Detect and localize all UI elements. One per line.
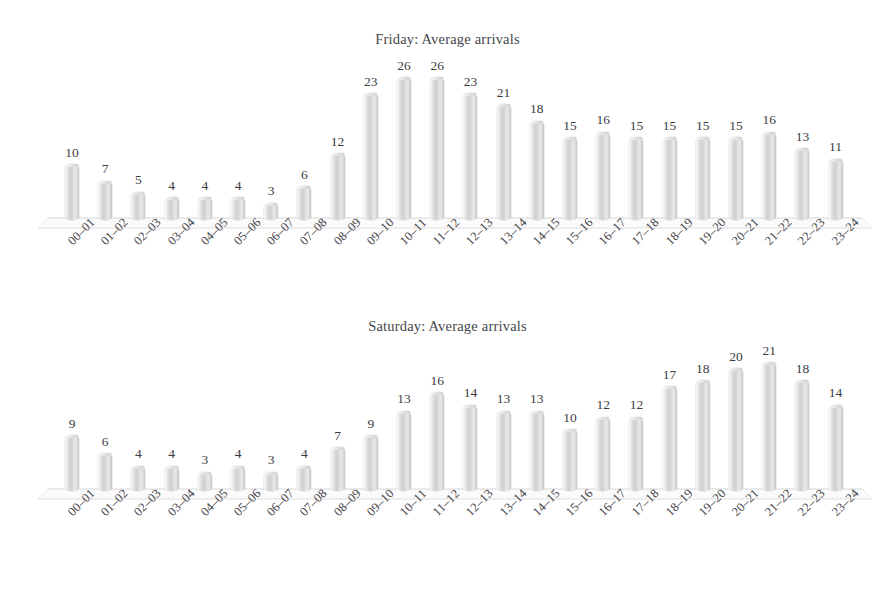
- bar-cylinder: [165, 198, 179, 220]
- chart-saturday-x-axis-labels: 00–0101–0202–0303–0404–0505–0606–0707–08…: [0, 297, 895, 367]
- chart-friday: Friday: Average arrivals 107544436122326…: [0, 0, 895, 300]
- bar-top-cap: [829, 158, 843, 162]
- bar-top-cap: [131, 191, 145, 195]
- bar-cylinder: [264, 204, 278, 220]
- bar-cylinder: [297, 187, 311, 220]
- bar-cylinder: [397, 412, 411, 491]
- bar-value-label: 21: [489, 86, 519, 100]
- bar-cylinder: [165, 467, 179, 491]
- bar-cylinder: [762, 363, 776, 491]
- bar-top-cap: [596, 131, 610, 135]
- bar-value-label: 17: [655, 368, 685, 382]
- bar-top-cap: [629, 416, 643, 420]
- bar-value-label: 16: [422, 374, 452, 388]
- bar-top-cap: [463, 404, 477, 408]
- bar-value-label: 15: [721, 119, 751, 133]
- bar-top-cap: [663, 136, 677, 140]
- bar-top-cap: [198, 471, 212, 475]
- bar-cylinder: [98, 454, 112, 491]
- bar-top-cap: [131, 465, 145, 469]
- bar-cylinder: [297, 467, 311, 491]
- bar-value-label: 11: [821, 140, 851, 154]
- bar-value-label: 9: [356, 417, 386, 431]
- bar-value-label: 6: [90, 435, 120, 449]
- bar-value-label: 15: [621, 119, 651, 133]
- bar-top-cap: [297, 465, 311, 469]
- bar-cylinder: [430, 393, 444, 491]
- bar-top-cap: [98, 180, 112, 184]
- bar-value-label: 4: [157, 179, 187, 193]
- bar-cylinder: [65, 165, 79, 220]
- bar-cylinder: [463, 406, 477, 491]
- bar-cylinder: [729, 138, 743, 220]
- bar-cylinder: [198, 198, 212, 220]
- bar-value-label: 10: [555, 411, 585, 425]
- bar-value-label: 12: [621, 398, 651, 412]
- charts-page: Friday: Average arrivals 107544436122326…: [0, 0, 895, 590]
- bar-value-label: 12: [588, 398, 618, 412]
- bar-cylinder: [696, 381, 710, 491]
- bar-top-cap: [696, 136, 710, 140]
- bar-value-label: 9: [57, 417, 87, 431]
- bar-value-label: 13: [389, 392, 419, 406]
- bar-value-label: 15: [655, 119, 685, 133]
- bar-cylinder: [629, 418, 643, 491]
- bar-top-cap: [397, 410, 411, 414]
- bar-cylinder: [829, 160, 843, 220]
- bar-value-label: 15: [555, 119, 585, 133]
- bar-value-label: 18: [522, 102, 552, 116]
- bar-value-label: 4: [123, 447, 153, 461]
- bar-cylinder: [530, 412, 544, 491]
- bar-cylinder: [795, 381, 809, 491]
- bar-cylinder: [596, 133, 610, 220]
- bar-value-label: 13: [522, 392, 552, 406]
- bar-top-cap: [596, 416, 610, 420]
- bar-cylinder: [231, 198, 245, 220]
- bar-cylinder: [696, 138, 710, 220]
- bar-cylinder: [497, 105, 511, 220]
- bar-cylinder: [364, 436, 378, 491]
- bar-cylinder: [198, 473, 212, 491]
- bar-cylinder: [795, 149, 809, 220]
- bar-top-cap: [530, 410, 544, 414]
- bar-cylinder: [663, 138, 677, 220]
- bar-cylinder: [264, 473, 278, 491]
- bar-cylinder: [729, 369, 743, 491]
- bar-value-label: 6: [289, 168, 319, 182]
- bar-cylinder: [596, 418, 610, 491]
- bar-cylinder: [364, 94, 378, 220]
- bar-top-cap: [530, 120, 544, 124]
- bar-cylinder: [463, 94, 477, 220]
- bar-cylinder: [762, 133, 776, 220]
- bar-cylinder: [331, 154, 345, 220]
- bar-cylinder: [430, 78, 444, 220]
- bar-cylinder: [397, 78, 411, 220]
- bar-value-label: 10: [57, 146, 87, 160]
- bar-cylinder: [231, 467, 245, 491]
- bar-value-label: 23: [455, 75, 485, 89]
- bar-value-label: 4: [157, 447, 187, 461]
- bar-value-label: 3: [190, 453, 220, 467]
- bar-value-label: 14: [821, 386, 851, 400]
- bar-top-cap: [264, 202, 278, 206]
- bar-value-label: 5: [123, 173, 153, 187]
- bar-value-label: 3: [256, 184, 286, 198]
- bar-value-label: 13: [489, 392, 519, 406]
- bar-value-label: 15: [688, 119, 718, 133]
- bar-top-cap: [762, 131, 776, 135]
- bar-cylinder: [65, 436, 79, 491]
- bar-cylinder: [530, 122, 544, 220]
- bar-cylinder: [497, 412, 511, 491]
- bar-value-label: 16: [588, 113, 618, 127]
- bar-value-label: 13: [787, 130, 817, 144]
- bar-value-label: 12: [323, 135, 353, 149]
- bar-value-label: 4: [289, 447, 319, 461]
- bar-value-label: 23: [356, 75, 386, 89]
- bar-cylinder: [331, 448, 345, 491]
- bar-cylinder: [131, 193, 145, 220]
- bar-cylinder: [829, 406, 843, 491]
- bar-cylinder: [629, 138, 643, 220]
- bar-value-label: 14: [455, 386, 485, 400]
- bar-top-cap: [829, 404, 843, 408]
- bar-value-label: 4: [223, 179, 253, 193]
